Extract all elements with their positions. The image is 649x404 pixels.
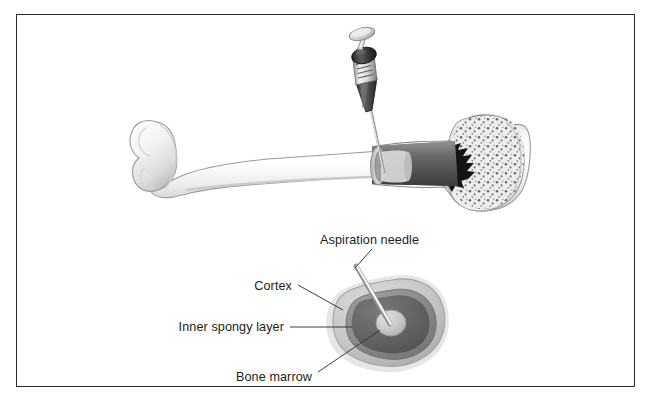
label-inner-spongy-layer: Inner spongy layer bbox=[179, 320, 284, 334]
bone-cross-section bbox=[326, 266, 449, 372]
figure-root: Aspiration needle Cortex Inner spongy la… bbox=[0, 0, 649, 404]
label-bone-marrow: Bone marrow bbox=[236, 370, 313, 384]
bone-marrow-aspiration-illustration: Aspiration needle Cortex Inner spongy la… bbox=[0, 0, 649, 404]
label-aspiration-needle: Aspiration needle bbox=[320, 233, 419, 247]
long-bone bbox=[130, 110, 530, 216]
leader-aspiration-needle bbox=[355, 249, 372, 268]
marrow-core-highlight bbox=[381, 151, 408, 183]
label-cortex: Cortex bbox=[254, 279, 292, 293]
marrow-core-end bbox=[404, 152, 412, 181]
